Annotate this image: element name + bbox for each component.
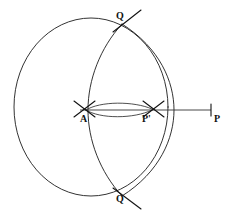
lens-upper-arc: [86, 103, 152, 110]
label-p-prime: P': [142, 114, 151, 124]
geometry-canvas: [0, 0, 235, 217]
geometry-figure: Q Q A P' P: [0, 0, 235, 217]
label-q-bottom: Q: [116, 194, 124, 204]
label-a: A: [80, 114, 87, 124]
label-p: P: [214, 114, 220, 124]
label-q-top: Q: [116, 11, 124, 21]
